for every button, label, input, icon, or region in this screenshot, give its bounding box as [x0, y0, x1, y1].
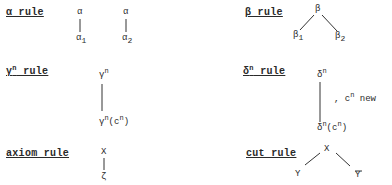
beta-top: β [315, 4, 320, 14]
alpha-branch-1-bottom: α1 [76, 33, 86, 45]
delta-rule-label: δn rule [243, 64, 285, 77]
cut-left-line [305, 153, 320, 165]
beta-left-line [300, 15, 314, 30]
gamma-bottom: γn(cn) [99, 114, 129, 127]
gamma-top: γn [99, 67, 109, 80]
cut-top: X [324, 144, 329, 154]
beta-right-line [322, 15, 337, 31]
beta-right: β2 [335, 31, 345, 43]
cut-rule-label: cut rule [246, 148, 296, 159]
delta-bottom: δn(cn) [317, 120, 347, 133]
delta-top: δn [317, 67, 327, 80]
axiom-bottom: ζ [101, 172, 106, 182]
delta-side-note: , cn new [334, 91, 376, 104]
cut-right-line [336, 153, 350, 166]
beta-rule-label: β rule [245, 7, 283, 18]
axiom-top: X [101, 147, 106, 157]
gamma-rule-label: γn rule [6, 64, 48, 77]
axiom-rule-label: axiom rule [6, 148, 69, 159]
cut-left: Y [295, 169, 300, 179]
alpha-branch-2-bottom: α2 [122, 33, 132, 45]
cut-right-negated: Y [355, 170, 360, 180]
alpha-branch-1-top: α [77, 7, 82, 17]
alpha-rule-label: α rule [6, 7, 44, 18]
alpha-branch-2-top: α [123, 7, 128, 17]
beta-left: β1 [293, 30, 303, 42]
